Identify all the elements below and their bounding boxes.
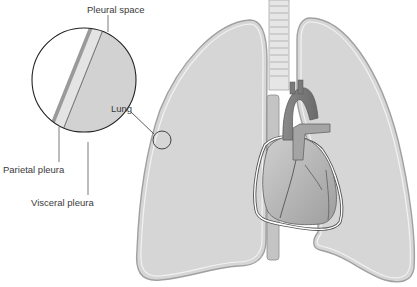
label-parietal-pleura: Parietal pleura bbox=[3, 164, 64, 175]
label-pleural-space: Pleural space bbox=[87, 4, 145, 15]
trachea bbox=[269, 0, 289, 90]
right-lung bbox=[137, 20, 267, 280]
label-visceral-pleura: Visceral pleura bbox=[31, 197, 94, 208]
pleura-diagram: Pleural space Lung Parietal pleura Visce… bbox=[0, 0, 417, 287]
label-lung: Lung bbox=[111, 103, 132, 114]
